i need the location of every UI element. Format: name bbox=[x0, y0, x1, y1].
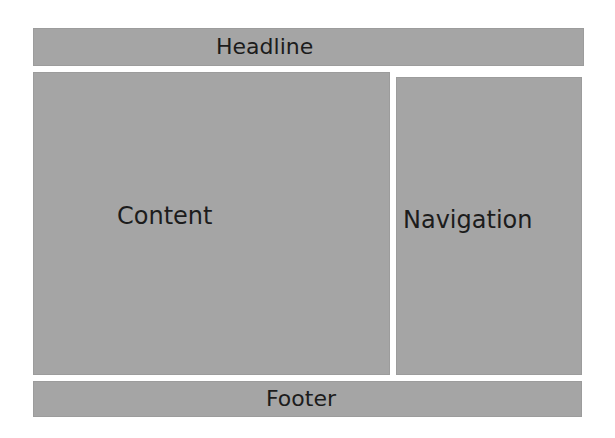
footer-region: Footer bbox=[33, 381, 582, 417]
navigation-label: Navigation bbox=[403, 208, 532, 232]
navigation-region: Navigation bbox=[396, 77, 582, 375]
content-region: Content bbox=[33, 72, 390, 375]
footer-label: Footer bbox=[266, 388, 336, 410]
headline-label: Headline bbox=[216, 36, 313, 58]
content-label: Content bbox=[117, 204, 212, 228]
headline-region: Headline bbox=[33, 28, 584, 66]
